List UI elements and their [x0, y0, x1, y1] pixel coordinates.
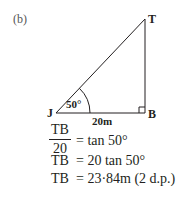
equation-3-lhs: TB — [51, 172, 69, 186]
point-j-label: J — [47, 106, 53, 121]
base-length-label: 20m — [92, 115, 112, 127]
point-b-label: B — [148, 107, 156, 122]
angle-label: 50° — [66, 98, 81, 110]
equation-2-rhs: = 20 tan 50° — [76, 154, 145, 168]
equation-1-rhs: = tan 50° — [76, 134, 128, 148]
fraction-tb-over-20: TB 20 — [49, 122, 71, 157]
fraction-numerator: TB — [49, 122, 71, 140]
right-angle-marker-b — [139, 107, 145, 113]
point-t-label: T — [148, 12, 156, 27]
equation-2-lhs: TB — [51, 154, 69, 168]
equation-3-rhs: = 23·84m (2 d.p.) — [76, 172, 175, 186]
